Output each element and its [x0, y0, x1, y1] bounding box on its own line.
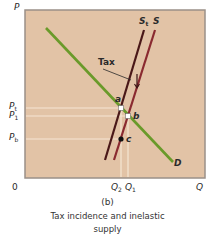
y-tick-pb: Pb: [9, 132, 18, 143]
supply-tax-label: St: [139, 16, 148, 27]
caption-line-1: Tax incidence and inelastic: [0, 211, 215, 221]
x-tick-q2: Q2: [111, 182, 122, 193]
x-tick-q1: Q1: [125, 182, 136, 193]
point-c-label: c: [126, 134, 131, 144]
panel-label: (b): [0, 197, 215, 207]
point-a-marker: [119, 106, 124, 111]
demand-label: D: [174, 158, 181, 168]
y-tick-p1: P1: [9, 110, 18, 121]
caption-line-2: supply: [0, 224, 215, 234]
tax-incidence-figure: P 0 Q Pt P1 Pb Q2 Q1 St S D Tax a b c (b…: [0, 0, 215, 237]
supply-label: S: [153, 16, 159, 26]
origin-label: 0: [12, 182, 18, 192]
point-b-label: b: [133, 111, 139, 121]
y-axis-label: P: [14, 2, 19, 12]
x-axis-label: Q: [196, 182, 203, 192]
point-a-label: a: [115, 94, 121, 104]
point-c-marker: [118, 136, 123, 141]
point-b-marker: [126, 114, 131, 119]
tax-label: Tax: [98, 57, 115, 67]
